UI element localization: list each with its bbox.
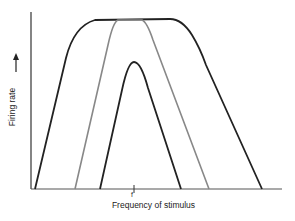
tuning-curve-diagram: [0, 0, 295, 221]
y-axis-label-text: Firing rate: [7, 71, 17, 143]
intermediate-tuning-curve: [75, 20, 209, 189]
x-axis-label: Frequency of stimulus: [0, 200, 295, 210]
x-tick-label: f: [131, 191, 133, 198]
broad-tuning-curve: [35, 19, 262, 189]
arrow-head-icon: [13, 53, 19, 60]
y-axis-label: Firing rate: [6, 62, 18, 157]
